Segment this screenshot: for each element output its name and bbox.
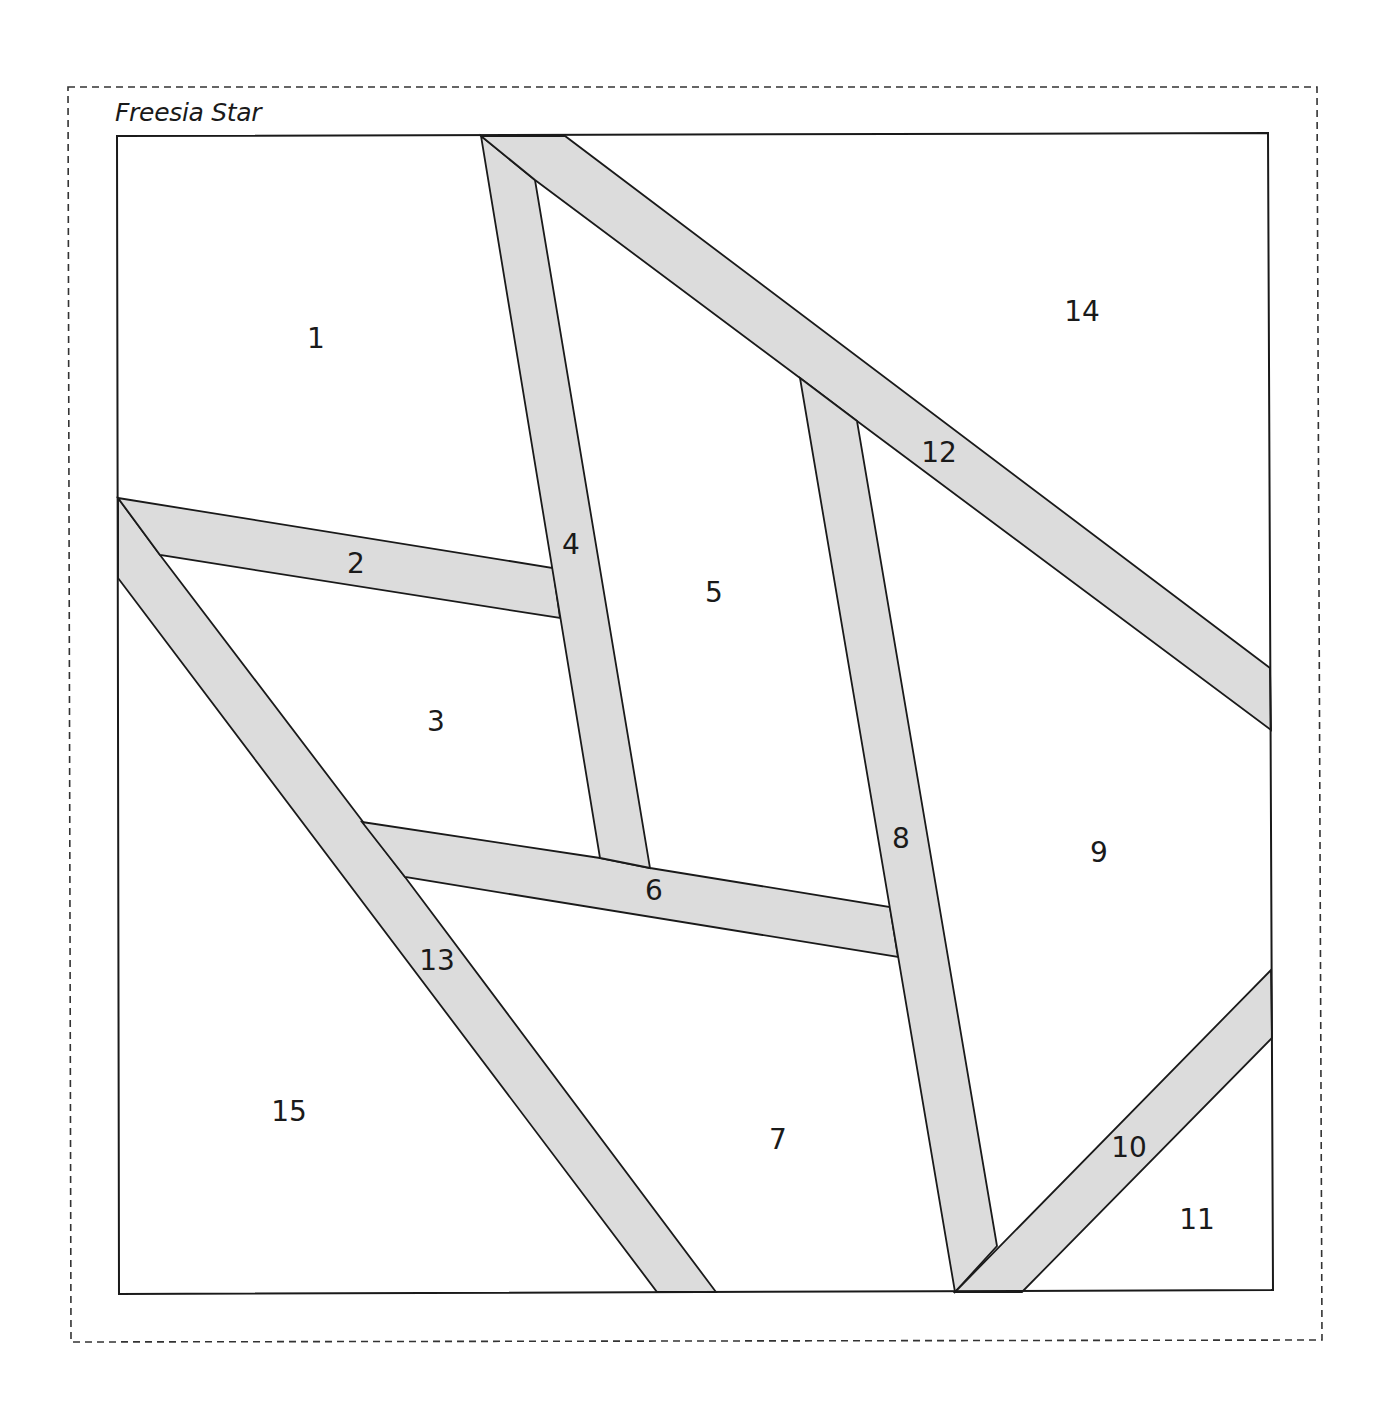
pattern-diagram: 123456789101112131415: [0, 0, 1386, 1406]
piece-label-11: 11: [1179, 1203, 1215, 1236]
piece-labels: 123456789101112131415: [271, 295, 1215, 1236]
piece-label-1: 1: [307, 322, 325, 355]
piece-label-2: 2: [347, 547, 365, 580]
piece-label-8: 8: [892, 822, 910, 855]
piece-label-9: 9: [1090, 836, 1108, 869]
piece-label-14: 14: [1064, 295, 1100, 328]
piece-label-13: 13: [419, 944, 455, 977]
piece-label-12: 12: [921, 436, 957, 469]
piece-label-5: 5: [705, 576, 723, 609]
piece-label-10: 10: [1111, 1131, 1147, 1164]
piece-label-15: 15: [271, 1095, 307, 1128]
piece-label-7: 7: [769, 1123, 787, 1156]
piece-label-4: 4: [562, 528, 580, 561]
piece-label-3: 3: [427, 705, 445, 738]
piece-label-6: 6: [645, 874, 663, 907]
